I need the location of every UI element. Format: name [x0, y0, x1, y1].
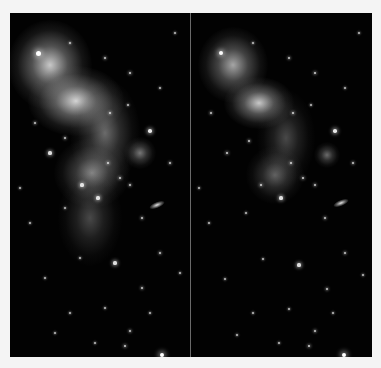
- star: [64, 207, 66, 209]
- star: [310, 104, 312, 106]
- star: [314, 330, 316, 332]
- nebula-cloud: [54, 138, 131, 208]
- star: [219, 51, 223, 55]
- star: [79, 257, 81, 259]
- star: [224, 278, 226, 280]
- star: [248, 140, 250, 142]
- edge-on-galaxy: [148, 199, 165, 211]
- star: [362, 274, 364, 276]
- star: [342, 353, 347, 357]
- star: [208, 222, 210, 224]
- star: [48, 151, 51, 154]
- nebula-cloud: [257, 90, 315, 186]
- star: [129, 330, 131, 332]
- star: [252, 312, 254, 314]
- star: [44, 277, 46, 279]
- star: [302, 177, 305, 180]
- nebula-cloud: [70, 79, 140, 188]
- star: [54, 332, 56, 334]
- nebula-cloud: [124, 137, 156, 169]
- star: [94, 342, 96, 344]
- star: [252, 42, 254, 44]
- star: [314, 184, 316, 186]
- star: [159, 252, 161, 254]
- star: [236, 334, 238, 336]
- star: [352, 162, 354, 164]
- nebula-cloud: [224, 77, 294, 128]
- star: [119, 177, 122, 180]
- star: [69, 42, 71, 44]
- star: [149, 312, 151, 314]
- star: [96, 196, 99, 199]
- image-frame: [10, 13, 372, 357]
- star: [333, 129, 337, 133]
- star: [262, 258, 264, 260]
- star: [36, 51, 41, 56]
- star: [324, 217, 326, 219]
- star: [278, 342, 280, 344]
- star: [160, 353, 165, 357]
- star: [292, 112, 295, 115]
- star: [169, 162, 171, 164]
- star: [288, 308, 290, 310]
- star: [104, 307, 106, 309]
- star: [124, 345, 127, 348]
- star: [159, 87, 161, 89]
- nebula-cloud: [246, 146, 304, 204]
- star: [344, 252, 346, 254]
- star: [104, 57, 106, 59]
- star: [107, 162, 110, 165]
- star: [127, 104, 129, 106]
- left-image-panel: [10, 13, 190, 357]
- star: [288, 57, 290, 59]
- star: [34, 122, 36, 124]
- star: [141, 217, 143, 219]
- nebula-cloud: [28, 66, 124, 136]
- nebula-cloud: [314, 142, 340, 168]
- star: [314, 72, 317, 75]
- star: [279, 196, 282, 199]
- right-image-panel: [191, 13, 372, 357]
- star: [358, 32, 360, 34]
- star: [129, 72, 132, 75]
- star: [260, 184, 263, 187]
- star: [80, 183, 83, 186]
- star: [129, 184, 131, 186]
- star: [64, 137, 66, 139]
- star: [245, 212, 247, 214]
- star: [290, 162, 293, 165]
- star: [19, 187, 21, 189]
- nebula-cloud: [10, 20, 92, 110]
- star: [326, 288, 328, 290]
- edge-on-galaxy: [332, 197, 349, 209]
- star: [69, 312, 71, 314]
- star: [29, 222, 31, 224]
- star: [198, 187, 200, 189]
- star: [344, 87, 346, 89]
- nebula-cloud: [58, 170, 122, 266]
- star: [226, 152, 229, 155]
- star: [141, 287, 143, 289]
- star: [297, 263, 300, 266]
- nebula-cloud: [198, 27, 268, 104]
- star: [179, 272, 181, 274]
- star: [308, 345, 311, 348]
- star: [210, 112, 212, 114]
- star: [332, 312, 334, 314]
- star: [148, 129, 152, 133]
- star: [109, 112, 112, 115]
- star: [174, 32, 176, 34]
- star: [113, 261, 116, 264]
